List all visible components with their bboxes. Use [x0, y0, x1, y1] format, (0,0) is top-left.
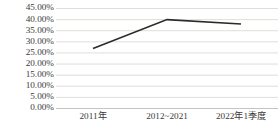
y-axis-tick-labels: 45.00%40.00%35.00%30.00%25.00%20.00%15.0… — [0, 0, 54, 129]
series-line — [93, 20, 241, 49]
data-series-line — [93, 20, 241, 49]
line-chart-figure: 45.00%40.00%35.00%30.00%25.00%20.00%15.0… — [0, 0, 280, 129]
y-axis-tick-label: 20.00% — [2, 59, 54, 68]
y-axis-tick-label: 10.00% — [2, 81, 54, 90]
y-axis-tick-label: 35.00% — [2, 26, 54, 35]
y-axis-tick-label: 15.00% — [2, 70, 54, 79]
y-axis-tick-label: 5.00% — [2, 92, 54, 101]
gridlines — [56, 9, 278, 109]
y-axis-tick-label: 0.00% — [2, 103, 54, 112]
y-axis-tick-label: 45.00% — [2, 3, 54, 12]
x-axis-tick-label: 2011年 — [79, 110, 106, 122]
y-axis-tick-label: 30.00% — [2, 37, 54, 46]
x-axis-tick-label: 2012~2021 — [146, 110, 188, 122]
x-axis-tick-label: 2022年1季度 — [216, 110, 266, 122]
x-axis-tick-labels: 2011年2012~20212022年1季度 — [56, 110, 278, 128]
y-axis-tick-label: 40.00% — [2, 15, 54, 24]
y-axis-tick-label: 25.00% — [2, 48, 54, 57]
